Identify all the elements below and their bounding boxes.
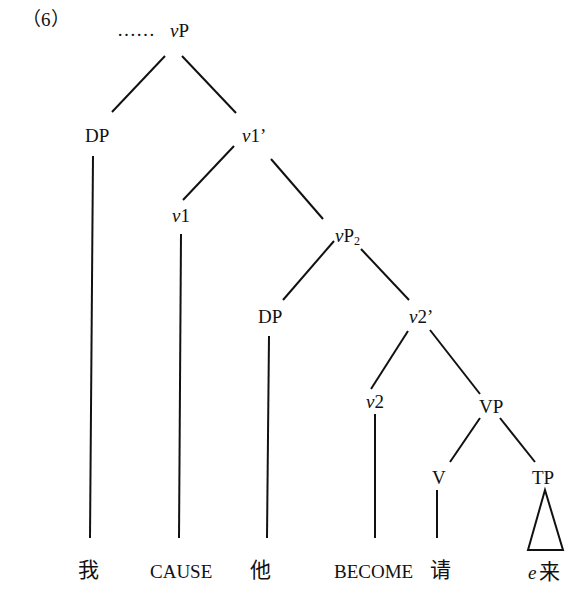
leaf-ta: 他 bbox=[250, 560, 271, 581]
node-root-vP: vP bbox=[170, 21, 189, 40]
leaf-wo: 我 bbox=[78, 560, 99, 581]
node-vP2: vP2 bbox=[335, 226, 360, 247]
node-V: V bbox=[432, 468, 446, 487]
node-TP: TP bbox=[532, 468, 554, 487]
root-ellipsis: …… bbox=[117, 20, 155, 39]
node-v2-bar: v2’ bbox=[409, 307, 433, 326]
node-dp-subject: DP bbox=[85, 126, 109, 145]
node-v2: v2 bbox=[366, 392, 384, 411]
node-v1: v1 bbox=[172, 206, 190, 225]
leaf-e-lai: e来 bbox=[528, 562, 560, 583]
node-dp-object: DP bbox=[258, 307, 282, 326]
leaf-become: BECOME bbox=[334, 562, 413, 581]
tree-branches bbox=[0, 0, 586, 593]
leaf-qing: 请 bbox=[430, 560, 451, 581]
example-number: （6） bbox=[22, 10, 70, 29]
leaf-cause: CAUSE bbox=[150, 562, 212, 581]
node-VP: VP bbox=[479, 397, 503, 416]
node-v1-bar: v1’ bbox=[242, 126, 266, 145]
